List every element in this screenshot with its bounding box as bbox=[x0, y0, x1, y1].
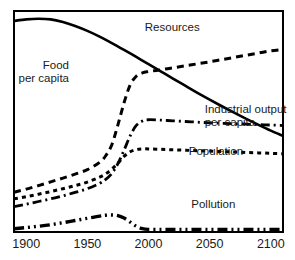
x-tick-label-2000: 2000 bbox=[135, 237, 163, 251]
series-label-food2: per capita bbox=[18, 72, 69, 84]
chart-background bbox=[0, 0, 295, 260]
x-tick-label-1950: 1950 bbox=[73, 237, 101, 251]
limits-to-growth-chart: ResourcesFoodper capitaIndustrial output… bbox=[0, 0, 295, 260]
series-label-food1: Food bbox=[43, 59, 69, 71]
x-tick-label-2100: 2100 bbox=[257, 237, 285, 251]
chart-container: ResourcesFoodper capitaIndustrial output… bbox=[0, 0, 295, 260]
series-label-industrial1: Industrial output bbox=[205, 103, 288, 115]
series-label-population: Population bbox=[189, 145, 243, 157]
series-label-resources: Resources bbox=[145, 21, 200, 33]
x-tick-label-1900: 1900 bbox=[12, 237, 40, 251]
x-tick-label-2050: 2050 bbox=[196, 237, 224, 251]
series-label-pollution: Pollution bbox=[191, 198, 235, 210]
series-label-industrial2: per capita bbox=[205, 116, 256, 128]
